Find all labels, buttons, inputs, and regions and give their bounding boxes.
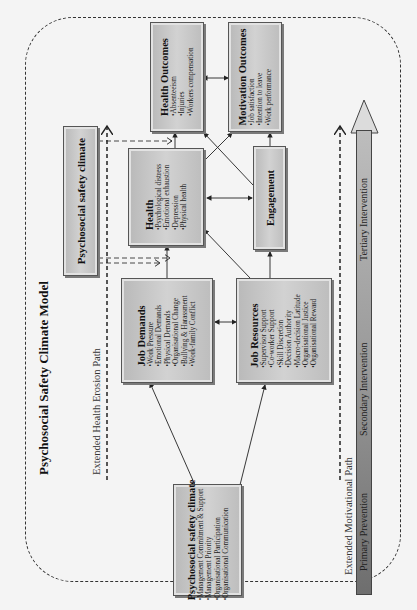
list-item: Work performance bbox=[265, 28, 273, 125]
health-erosion-path-label: Extended Health Erosion Path bbox=[91, 348, 102, 475]
list-item: Intention to leave bbox=[256, 28, 264, 125]
list-item: Management Priority bbox=[205, 480, 213, 601]
list-item: Emotional exhaustion bbox=[163, 164, 171, 230]
list-item: Organisational Participation bbox=[213, 480, 221, 601]
engagement-title: Engagement bbox=[264, 170, 275, 226]
list-item: Organisational Change bbox=[173, 295, 181, 366]
list-item: Work Pressure bbox=[147, 295, 155, 366]
list-item: Organisational Reward bbox=[311, 294, 319, 367]
job-demands-box: Job Demands Work Pressure Emotional Dema… bbox=[121, 278, 213, 383]
motivational-path-label: Extended Motivational Path bbox=[343, 457, 354, 575]
motivation-outcomes-box: Motivation Outcomes Job satisfaction Int… bbox=[228, 22, 282, 132]
band-label-secondary: Secondary Intervention bbox=[358, 342, 369, 436]
health-box: Health Psychological distress Emotional … bbox=[128, 148, 204, 246]
list-item: Management Commitment & Support bbox=[196, 480, 204, 601]
list-item: Depression bbox=[172, 164, 180, 230]
list-item: Emotional Demands bbox=[156, 295, 164, 366]
diagram-title: Psychosocial Safety Climate Model bbox=[36, 281, 52, 475]
list-item: Decision Authority bbox=[285, 294, 293, 367]
psc-antecedent-list: Management Commitment & Support Manageme… bbox=[196, 480, 230, 601]
list-item: Macro-decision Latitude bbox=[294, 294, 302, 367]
list-item: Job satisfaction bbox=[248, 28, 256, 125]
job-demands-list: Work Pressure Emotional Demands Physical… bbox=[147, 295, 197, 366]
list-item: Injuries bbox=[178, 38, 186, 116]
psc-moderator-box: Psychosocial safety climate bbox=[63, 126, 98, 276]
job-resources-list: Supervisor Support Co-worker Support Ski… bbox=[260, 294, 319, 367]
engagement-box: Engagement bbox=[253, 146, 286, 250]
list-item: Absenteeism bbox=[170, 38, 178, 116]
job-resources-box: Job Resources Supervisor Support Co-work… bbox=[236, 278, 332, 383]
band-label-tertiary: Tertiary Intervention bbox=[358, 178, 369, 261]
health-list: Psychological distress Emotional exhaust… bbox=[155, 164, 189, 230]
list-item: Organisational Justice bbox=[302, 294, 310, 367]
psc-moderator-title: Psychosocial safety climate bbox=[75, 138, 86, 264]
list-item: Workers compensation bbox=[187, 38, 195, 116]
list-item: Psychological distress bbox=[155, 164, 163, 230]
health-title: Health bbox=[144, 164, 155, 230]
list-item: Organisational Communication bbox=[221, 480, 229, 601]
job-resources-title: Job Resources bbox=[249, 294, 260, 367]
band-label-primary: Primary Prevention bbox=[358, 493, 369, 571]
intervention-band: Primary Prevention Secondary Interventio… bbox=[356, 130, 372, 595]
motivation-outcomes-title: Motivation Outcomes bbox=[237, 28, 248, 125]
list-item: Supervisor Support bbox=[260, 294, 268, 367]
health-outcomes-title: Health Outcomes bbox=[159, 38, 170, 116]
list-item: Physical Demands bbox=[164, 295, 172, 366]
list-item: Work-family Conflict bbox=[189, 295, 197, 366]
list-item: Physical health bbox=[180, 164, 188, 230]
psc-antecedent-box: Psychosocial safety climate Management C… bbox=[173, 484, 242, 596]
health-outcomes-box: Health Outcomes Absenteeism Injuries Wor… bbox=[150, 22, 204, 132]
health-outcomes-list: Absenteeism Injuries Workers compensatio… bbox=[170, 38, 195, 116]
psc-antecedent-title: Psychosocial safety climate bbox=[185, 480, 196, 601]
motivation-outcomes-list: Job satisfaction Intention to leave Work… bbox=[248, 28, 273, 125]
job-demands-title: Job Demands bbox=[136, 295, 147, 366]
intervention-arrowhead bbox=[351, 100, 378, 133]
list-item: Co-worker Support bbox=[268, 294, 276, 367]
list-item: Bullying & Harassment bbox=[181, 295, 189, 366]
list-item: Skill Discretion bbox=[277, 294, 285, 367]
